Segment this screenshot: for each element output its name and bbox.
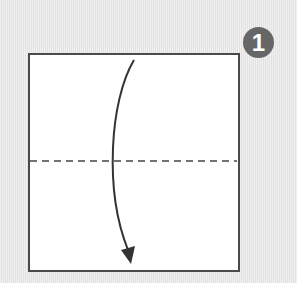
- fold-arrow-icon: [113, 60, 135, 264]
- step-number-badge: 1: [243, 27, 274, 58]
- diagram-canvas: 1: [0, 0, 297, 283]
